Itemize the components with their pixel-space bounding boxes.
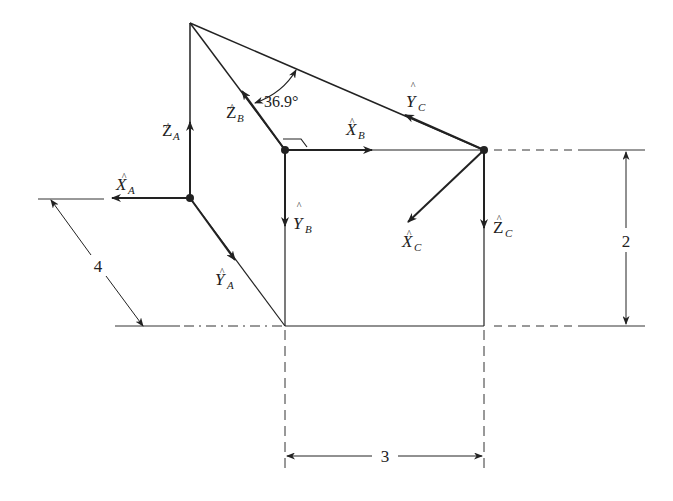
- diagram-svg: 2 3 4 36.9° ^ Z A ^ X A ^ Y A ^ Z B ^ X …: [0, 0, 673, 501]
- origin-B-dot: [281, 146, 289, 154]
- dimension-3-label: 3: [381, 447, 390, 466]
- dimension-4-label: 4: [94, 257, 103, 276]
- svg-text:X: X: [401, 232, 413, 251]
- frames-diagram: 2 3 4 36.9° ^ Z A ^ X A ^ Y A ^ Z B ^ X …: [0, 0, 673, 501]
- svg-text:Z: Z: [226, 103, 236, 122]
- vector-YC-icon: [405, 115, 484, 150]
- svg-text:C: C: [418, 101, 426, 113]
- svg-text:A: A: [172, 130, 180, 142]
- origin-C-dot: [480, 146, 488, 154]
- svg-text:B: B: [358, 129, 365, 141]
- label-XA: ^ X A: [115, 171, 135, 196]
- svg-text:C: C: [505, 227, 513, 239]
- svg-text:A: A: [127, 184, 135, 196]
- svg-text:^: ^: [411, 80, 416, 91]
- svg-text:B: B: [305, 223, 312, 235]
- vector-XC-icon: [408, 150, 484, 222]
- svg-text:B: B: [237, 112, 244, 124]
- vector-YA-icon: [190, 198, 235, 260]
- label-ZC: ^ Z C: [493, 213, 513, 239]
- label-ZA: ^ Z A: [162, 121, 180, 142]
- label-YC: ^ Y C: [406, 80, 426, 113]
- svg-text:Y: Y: [406, 92, 417, 111]
- svg-text:X: X: [115, 175, 127, 194]
- label-XC: ^ X C: [401, 228, 422, 253]
- svg-text:Y: Y: [293, 214, 304, 233]
- dimension-2-label: 2: [622, 232, 631, 251]
- origin-A-dot: [186, 194, 194, 202]
- svg-text:A: A: [226, 279, 234, 291]
- svg-text:Z: Z: [162, 121, 172, 140]
- frame-C-vectors: [405, 115, 484, 228]
- label-YB: ^ Y B: [293, 200, 312, 235]
- right-angle-marker-icon: [283, 139, 307, 147]
- svg-text:Z: Z: [493, 218, 503, 237]
- label-YA: ^ Y A: [215, 266, 234, 291]
- structure-lines: [190, 23, 484, 326]
- svg-text:X: X: [345, 120, 357, 139]
- label-ZB: ^ Z B: [226, 102, 244, 124]
- svg-text:C: C: [414, 241, 422, 253]
- svg-text:^: ^: [297, 200, 302, 211]
- label-XB: ^ X B: [345, 116, 365, 141]
- frame-B-vectors: [242, 91, 372, 226]
- angle-label: 36.9°: [264, 93, 298, 110]
- svg-text:Y: Y: [215, 270, 226, 289]
